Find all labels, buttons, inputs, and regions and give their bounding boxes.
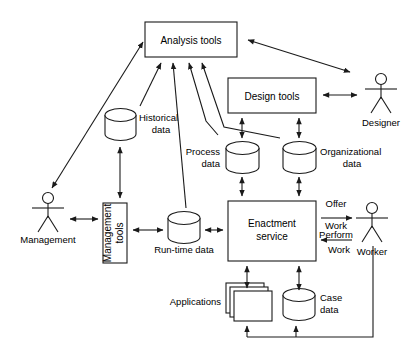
label-enactment-service-2: service [256,231,288,242]
label-designer: Designer [362,117,400,128]
datastore-historical-data[interactable] [105,109,136,141]
label-offer: Offer [326,198,347,209]
label-process-data: Process [186,146,221,157]
edge-historical-data-analysis-tools [140,63,161,106]
label-perform-work: Work [328,244,350,255]
label-case-data-2: data [320,304,339,315]
edge-analysis-tools-designer [248,40,350,72]
datastore-organizational-data[interactable] [283,142,316,174]
label-management-tools-2: tools [114,222,125,243]
label-analysis-tools: Analysis tools [160,35,221,46]
datastore-case-data[interactable] [283,289,315,321]
label-organizational-data: Organizational [320,146,381,157]
actor-worker[interactable] [356,203,388,243]
label-organizational-data-2: data [343,158,362,169]
diagram-canvas: Analysis tools Design tools Management t… [0,0,413,359]
datastore-process-data[interactable] [226,142,259,174]
label-applications: Applications [170,296,221,307]
label-management-tools: Management [102,204,113,263]
edge-runtime-data-analysis-tools [173,63,186,208]
architecture-diagram: Analysis tools Design tools Management t… [0,0,413,359]
label-perform: Perform [319,229,353,240]
edge-process-data-analysis-tools [189,63,218,135]
label-case-data: Case [320,292,342,303]
actor-designer[interactable] [365,74,397,114]
label-design-tools: Design tools [244,91,299,102]
label-process-data-2: data [202,158,221,169]
label-management: Management [20,234,76,245]
actor-management[interactable] [32,193,64,233]
label-runtime-data: Run-time data [154,244,214,255]
label-enactment-service: Enactment [248,218,296,229]
datastore-runtime-data[interactable] [168,212,200,244]
label-worker: Worker [357,246,387,257]
applications-stack[interactable] [226,283,272,321]
label-historical-data: Historical [139,112,178,123]
label-historical-data-2: data [152,124,171,135]
